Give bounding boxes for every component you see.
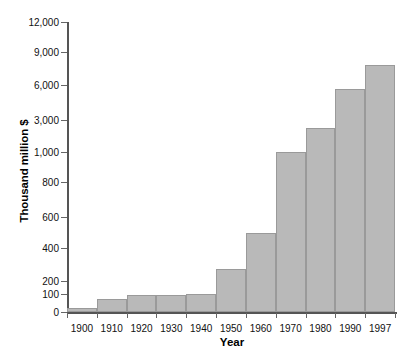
x-axis-tick bbox=[216, 313, 217, 318]
y-axis-label: 3,000 bbox=[34, 115, 59, 126]
x-axis-tick bbox=[306, 313, 307, 318]
bar bbox=[365, 65, 395, 312]
plot-area: 01002004006008001,0003,0006,0009,00012,0… bbox=[67, 22, 395, 312]
bar bbox=[97, 299, 127, 312]
x-axis-label: 1990 bbox=[339, 323, 361, 334]
y-axis-tick bbox=[61, 22, 67, 23]
y-axis-label: 6,000 bbox=[34, 80, 59, 91]
y-axis-tick bbox=[61, 281, 67, 282]
bar bbox=[67, 308, 97, 312]
x-axis-line bbox=[67, 312, 397, 314]
bar bbox=[216, 269, 246, 312]
y-axis-label: 400 bbox=[42, 243, 59, 254]
x-axis-tick bbox=[276, 313, 277, 318]
y-axis-label: 200 bbox=[42, 276, 59, 287]
x-axis-label: 1980 bbox=[309, 323, 331, 334]
y-axis-label: 12,000 bbox=[28, 17, 59, 28]
bar-chart: Thousand million $ 01002004006008001,000… bbox=[0, 0, 406, 356]
y-axis-label: 600 bbox=[42, 212, 59, 223]
y-axis-tick bbox=[61, 120, 67, 121]
y-axis-line bbox=[67, 22, 69, 314]
bar bbox=[156, 295, 186, 312]
y-axis-tick bbox=[61, 217, 67, 218]
y-axis-tick bbox=[61, 52, 67, 53]
y-axis-tick bbox=[61, 85, 67, 86]
x-axis-label: 1910 bbox=[101, 323, 123, 334]
y-axis-title: Thousand million $ bbox=[18, 96, 30, 246]
bar bbox=[335, 89, 365, 313]
x-axis-tick bbox=[97, 313, 98, 318]
x-axis-tick bbox=[246, 313, 247, 318]
x-axis-tick bbox=[127, 313, 128, 318]
y-axis-label: 1,000 bbox=[34, 147, 59, 158]
y-axis-label: 0 bbox=[53, 307, 59, 318]
x-axis-label: 1950 bbox=[220, 323, 242, 334]
y-axis-label: 9,000 bbox=[34, 47, 59, 58]
x-axis-tick bbox=[335, 313, 336, 318]
x-axis-label: 1960 bbox=[250, 323, 272, 334]
y-axis-label: 100 bbox=[42, 289, 59, 300]
x-axis-label: 1930 bbox=[160, 323, 182, 334]
x-axis-tick bbox=[67, 313, 68, 318]
x-axis-label: 1920 bbox=[130, 323, 152, 334]
x-axis-label: 1970 bbox=[280, 323, 302, 334]
x-axis-tick bbox=[186, 313, 187, 318]
y-axis-tick bbox=[61, 248, 67, 249]
y-axis-tick bbox=[61, 182, 67, 183]
bar bbox=[246, 233, 276, 313]
y-axis-tick bbox=[61, 294, 67, 295]
x-axis-label: 1940 bbox=[190, 323, 212, 334]
x-axis-label: 1997 bbox=[369, 323, 391, 334]
bar bbox=[276, 152, 306, 312]
bar bbox=[186, 294, 216, 312]
y-axis-tick bbox=[61, 152, 67, 153]
bar bbox=[306, 128, 336, 312]
x-axis-title: Year bbox=[67, 336, 397, 348]
x-axis-tick bbox=[395, 313, 396, 318]
x-axis-label: 1900 bbox=[71, 323, 93, 334]
x-axis-tick bbox=[156, 313, 157, 318]
x-axis-tick bbox=[365, 313, 366, 318]
y-axis-label: 800 bbox=[42, 177, 59, 188]
bar bbox=[127, 295, 157, 312]
